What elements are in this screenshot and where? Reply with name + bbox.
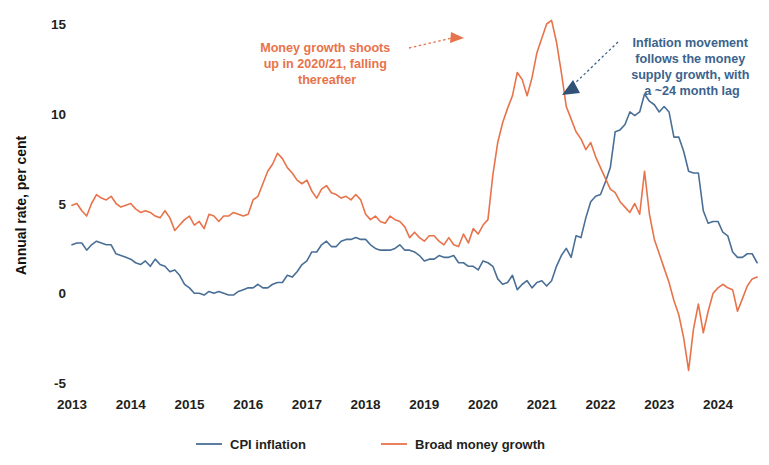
y-axis-title: Annual rate, per cent	[13, 135, 29, 275]
x-axis-tick-label: 2023	[644, 397, 675, 412]
chart-legend: CPI inflationBroad money growth	[196, 437, 545, 452]
money-growth-annotation-arrowhead	[450, 32, 464, 43]
y-axis-tick-label: 5	[58, 197, 66, 212]
x-axis-tick-label: 2017	[292, 397, 322, 412]
y-axis-tick-label: 15	[51, 17, 67, 32]
inflation-annotation: Inflation movement follows the money sup…	[562, 36, 753, 98]
y-axis-tick-label: 10	[51, 107, 66, 122]
inflation-annotation-leader	[570, 42, 618, 88]
x-axis-tick-label: 2022	[585, 397, 615, 412]
x-axis-tick-label: 2013	[57, 397, 88, 412]
x-axis-tick-label: 2024	[703, 397, 734, 412]
chart-container: -5051015 2013201420152016201720182019202…	[0, 0, 769, 465]
y-axis-tick-label: -5	[54, 376, 66, 391]
line-chart: -5051015 2013201420152016201720182019202…	[0, 0, 769, 465]
x-axis-tick-label: 2018	[351, 397, 382, 412]
legend-label: CPI inflation	[230, 437, 306, 452]
inflation-annotation-arrowhead	[562, 80, 580, 95]
x-axis-tick-label: 2019	[409, 397, 439, 412]
x-axis-tick-label: 2016	[233, 397, 264, 412]
x-axis-tick-labels: 2013201420152016201720182019202020212022…	[57, 397, 733, 412]
money-growth-annotation: Money growth shoots up in 2020/21, falli…	[260, 32, 464, 87]
series-line-cpi-inflation	[72, 94, 757, 295]
x-axis-tick-label: 2014	[116, 397, 147, 412]
x-axis-tick-label: 2020	[468, 397, 498, 412]
money-growth-annotation-text: Money growth shoots up in 2020/21, falli…	[260, 41, 394, 87]
inflation-annotation-text: Inflation movement follows the money sup…	[631, 36, 753, 98]
x-axis-tick-label: 2021	[527, 397, 558, 412]
x-axis-tick-label: 2015	[174, 397, 205, 412]
y-axis-tick-labels: -5051015	[51, 17, 67, 391]
legend-label: Broad money growth	[415, 437, 545, 452]
y-axis-tick-label: 0	[58, 286, 66, 301]
money-growth-annotation-leader	[409, 38, 452, 48]
